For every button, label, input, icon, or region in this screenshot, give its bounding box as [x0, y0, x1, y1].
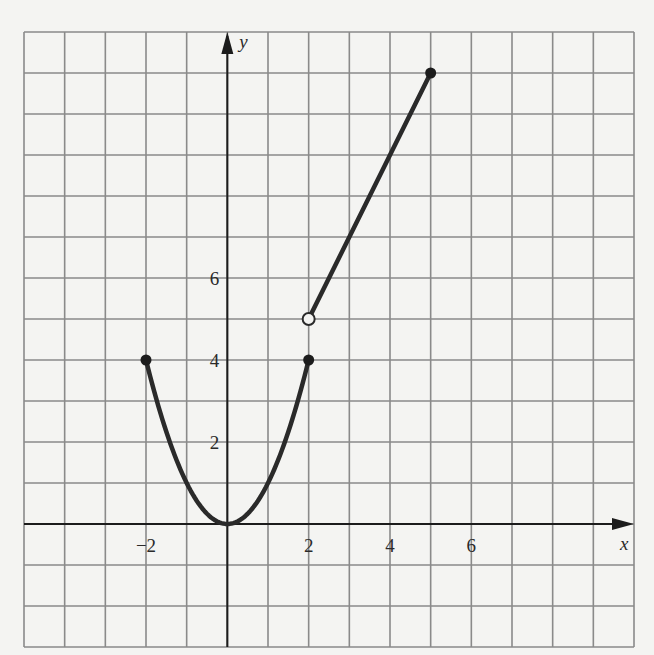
y-tick-label: 6 — [210, 268, 220, 289]
open-circle-endpoint — [303, 313, 315, 325]
x-tick-label: −2 — [136, 535, 156, 556]
x-tick-label: 6 — [467, 535, 477, 556]
closed-dot-endpoint — [141, 355, 152, 366]
y-axis-arrow-icon — [221, 32, 233, 54]
y-tick-label: 4 — [210, 350, 220, 371]
x-tick-label: 2 — [304, 535, 314, 556]
grid — [24, 32, 634, 647]
coordinate-plane: x y −2246246 — [0, 0, 654, 655]
closed-dot-endpoint — [303, 355, 314, 366]
x-tick-label: 4 — [385, 535, 395, 556]
y-axis-label: y — [237, 31, 248, 52]
axes: x y — [24, 31, 634, 647]
y-tick-label: 2 — [210, 432, 220, 453]
piecewise-function-graph: x y −2246246 — [0, 0, 654, 655]
x-axis-arrow-icon — [612, 518, 634, 530]
plot-series — [146, 73, 431, 524]
x-axis-label: x — [619, 533, 629, 554]
closed-dot-endpoint — [425, 68, 436, 79]
endpoint-markers — [141, 68, 437, 366]
